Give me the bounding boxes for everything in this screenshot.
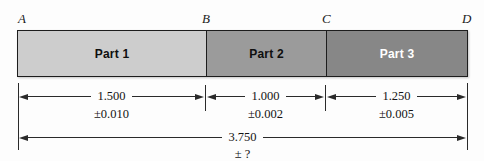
dimension-value-overall: 3.750 <box>222 131 262 144</box>
dimension-rule <box>28 137 222 138</box>
dimension-rule <box>132 96 195 97</box>
point-label-c: C <box>322 12 331 25</box>
dimension-rule <box>28 96 91 97</box>
dimension-ab: 1.500 <box>19 90 204 103</box>
dimension-value-ab: 1.500 <box>91 90 131 103</box>
arrow-left-icon <box>19 94 28 100</box>
dimension-rule <box>417 96 457 97</box>
arrow-left-icon <box>19 135 28 141</box>
dimension-rule <box>263 137 457 138</box>
tolerance-overall: ± ? <box>19 148 466 161</box>
point-label-a: A <box>18 12 26 25</box>
part-block-3: Part 3 <box>326 31 467 76</box>
tolerance-stackup-diagram: A B C D Part 1 Part 2 Part 3 1.500 ±0.01… <box>0 0 484 161</box>
part-label-3: Part 3 <box>380 47 415 61</box>
tolerance-cd: ±0.005 <box>327 108 466 121</box>
dimension-line-cd: 1.250 <box>336 90 457 103</box>
dimension-line-overall: 3.750 <box>28 131 457 144</box>
dimension-value-bc: 1.000 <box>245 90 285 103</box>
extension-line-c <box>325 85 326 111</box>
tolerance-ab: ±0.010 <box>19 108 204 121</box>
arrow-right-icon <box>457 135 466 141</box>
dimension-rule <box>286 96 315 97</box>
dimension-rule <box>336 96 376 97</box>
part-block-1: Part 1 <box>18 31 206 76</box>
extension-line-b <box>205 85 206 111</box>
point-label-d: D <box>462 12 471 25</box>
part-label-2: Part 2 <box>249 47 284 61</box>
extension-line-d <box>467 83 468 150</box>
part-label-1: Part 1 <box>95 47 130 61</box>
dimension-bc: 1.000 <box>207 90 324 103</box>
arrow-right-icon <box>195 94 204 100</box>
arrow-right-icon <box>457 94 466 100</box>
arrow-left-icon <box>327 94 336 100</box>
assembly-bar: Part 1 Part 2 Part 3 <box>17 30 468 77</box>
point-label-b: B <box>202 12 210 25</box>
tolerance-bc: ±0.002 <box>207 108 324 121</box>
dimension-line-ab: 1.500 <box>28 90 195 103</box>
dimension-value-cd: 1.250 <box>376 90 416 103</box>
part-block-2: Part 2 <box>206 31 326 76</box>
arrow-right-icon <box>315 94 324 100</box>
dimension-line-bc: 1.000 <box>216 90 315 103</box>
dimension-cd: 1.250 <box>327 90 466 103</box>
arrow-left-icon <box>207 94 216 100</box>
dimension-rule <box>216 96 245 97</box>
dimension-overall: 3.750 <box>19 131 466 144</box>
